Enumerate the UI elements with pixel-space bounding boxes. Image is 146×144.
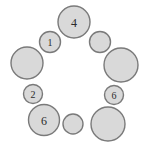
circle-node[interactable]: [90, 32, 111, 53]
circle-node[interactable]: [104, 48, 138, 82]
diagram-canvas: 46621: [0, 0, 146, 144]
node-label: 4: [71, 16, 77, 30]
circle-node[interactable]: [63, 114, 83, 134]
circle-node[interactable]: 2: [24, 85, 43, 104]
circle-node[interactable]: 4: [58, 6, 90, 38]
circle-node[interactable]: 6: [29, 105, 60, 136]
circle-ring-svg: 46621: [0, 0, 146, 144]
node-group: 46621: [11, 6, 138, 141]
node-circle[interactable]: [104, 48, 138, 82]
node-circle[interactable]: [90, 32, 111, 53]
circle-node[interactable]: [91, 107, 125, 141]
circle-node[interactable]: [11, 47, 43, 79]
node-circle[interactable]: [11, 47, 43, 79]
node-circle[interactable]: [63, 114, 83, 134]
circle-node[interactable]: 6: [105, 86, 124, 105]
node-circle[interactable]: [91, 107, 125, 141]
node-label: 2: [31, 89, 36, 100]
circle-node[interactable]: 1: [40, 32, 61, 53]
node-label: 1: [48, 37, 53, 48]
node-label: 6: [112, 90, 117, 101]
node-label: 6: [41, 114, 47, 128]
